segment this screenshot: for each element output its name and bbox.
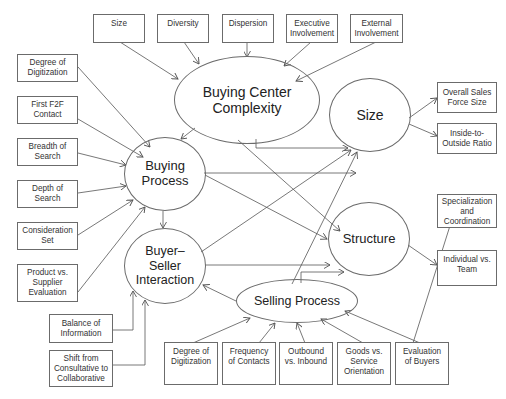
box-bp-product-vs-supplier-evaluation: Product vs. Supplier Evaluation <box>17 264 78 302</box>
construct-size: Size <box>329 78 411 152</box>
box-bp-breadth-of-search: Breadth of Search <box>17 138 78 166</box>
box-sp-degree-of-digitization: Degree of Digitization <box>164 342 218 385</box>
box-bp-first-f2f-contact: First F2F Contact <box>17 96 78 124</box>
box-bsi-balance-of-information: Balance of Information <box>49 314 113 343</box>
construct-buying-center-complexity: Buying Center Complexity <box>174 56 320 144</box>
box-sp-outbound-vs-inbound: Outbound vs. Inbound <box>279 342 333 385</box>
box-bcc-dispersion: Dispersion <box>222 14 274 43</box>
box-bp-consideration-set: Consideration Set <box>17 222 78 250</box>
construct-buyer-seller-interaction: Buyer– Seller Interaction <box>124 228 206 304</box>
box-bcc-diversity: Diversity <box>157 14 209 43</box>
box-structure-individual-vs-team: Individual vs. Team <box>437 250 497 286</box>
construct-buying-process: Buying Process <box>124 137 206 211</box>
box-bcc-executive-involvement: Executive Involvement <box>286 14 338 43</box>
box-sp-goods-vs-service-orientation: Goods vs. Service Orientation <box>337 342 391 385</box>
box-bcc-external-involvement: External Involvement <box>350 14 403 43</box>
box-bp-depth-of-search: Depth of Search <box>17 180 78 208</box>
conceptual-model-diagram: Buying Center Complexity Buying Process … <box>0 0 506 399</box>
box-bsi-shift-consultative-collaborative: Shift from Consultative to Collaborative <box>49 350 113 387</box>
construct-structure: Structure <box>328 202 410 276</box>
box-sp-evaluation-of-buyers: Evaluation of Buyers <box>395 342 449 385</box>
box-structure-specialization-coordination: Specialization and Coordination <box>437 194 497 228</box>
box-size-overall-sales-force-size: Overall Sales Force Size <box>437 82 497 113</box>
box-bcc-size: Size <box>93 14 145 43</box>
box-bp-degree-of-digitization: Degree of Digitization <box>17 54 78 82</box>
box-size-inside-to-outside-ratio: Inside-to- Outside Ratio <box>437 123 497 154</box>
construct-selling-process: Selling Process <box>236 279 358 323</box>
box-sp-frequency-of-contacts: Frequency of Contacts <box>222 342 276 385</box>
